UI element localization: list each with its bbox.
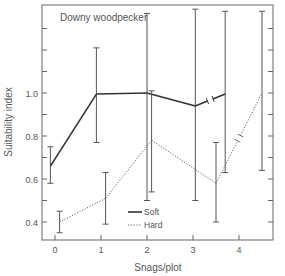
x-tick-label: 0 (52, 245, 57, 255)
x-tick-label: 1 (98, 245, 103, 255)
series-soft (47, 9, 228, 200)
series-line (216, 141, 238, 183)
series-line (96, 93, 147, 94)
x-tick-label: 3 (190, 245, 195, 255)
plot-frame (42, 5, 273, 240)
x-axis-label: Snags/plot (134, 262, 181, 273)
chart: 0.40.60.81.0 01234 Downy woodpecker Snag… (0, 0, 285, 276)
series-line (147, 93, 195, 106)
x-tick-label: 4 (236, 245, 241, 255)
series-line (60, 198, 106, 222)
y-tick-label: 0.6 (25, 175, 38, 185)
y-tick-label: 0.4 (25, 218, 38, 228)
series-line (213, 94, 225, 99)
series-line (106, 140, 152, 198)
x-axis-ticks: 01234 (52, 235, 241, 255)
series-line (152, 140, 216, 183)
chart-title: Downy woodpecker (60, 12, 148, 23)
series-line (50, 94, 96, 166)
legend-soft-label: Soft (144, 207, 160, 217)
legend-hard-label: Hard (144, 220, 163, 230)
series-line (195, 101, 207, 106)
legend: Soft Hard (128, 207, 163, 230)
y-axis-label: Suitability index (3, 87, 14, 156)
series-line (240, 93, 262, 135)
y-axis-ticks: 0.40.60.81.0 (25, 29, 273, 228)
series-hard (57, 11, 265, 232)
axis-break-mark (235, 139, 240, 142)
y-tick-label: 1.0 (25, 89, 38, 99)
series-group (47, 9, 265, 233)
y-tick-label: 0.8 (25, 132, 38, 142)
x-tick-label: 2 (144, 245, 149, 255)
